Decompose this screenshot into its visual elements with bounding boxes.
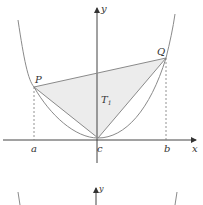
top-panel: y x P Q T1 a c b — [3, 3, 198, 163]
tick-label-a: a — [31, 143, 37, 154]
tick-label-b: b — [164, 143, 170, 154]
bottom-curve-right — [175, 192, 177, 205]
point-label-p: P — [34, 74, 42, 85]
bottom-panel: y — [18, 184, 177, 205]
point-label-q: Q — [157, 46, 165, 57]
diagram-canvas: y x P Q T1 a c b y — [0, 0, 203, 205]
region-subscript: 1 — [108, 99, 112, 106]
x-axis-label: x — [192, 143, 198, 154]
y-axis-label: y — [100, 3, 107, 14]
tick-label-c: c — [97, 143, 103, 154]
bottom-curve-left — [18, 192, 20, 205]
triangle-region-t1 — [34, 58, 166, 138]
bottom-y-axis-label: y — [98, 184, 104, 193]
